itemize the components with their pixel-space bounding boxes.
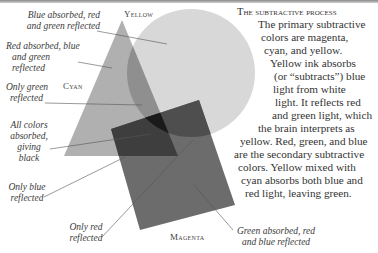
callout-blue-absorbed: Blue absorbed, red and green reflected bbox=[26, 10, 100, 32]
body-line-9: the brain interprets as bbox=[258, 122, 355, 135]
body-line-2: colors are magenta, bbox=[261, 31, 348, 44]
body-line-6: light from white bbox=[273, 83, 346, 96]
body-line-4: Yellow ink absorbs bbox=[270, 57, 356, 70]
callout-green-absorbed: Green absorbed, red and blue reflected bbox=[236, 226, 316, 248]
section-title: The subtractive process bbox=[237, 6, 337, 17]
callout-only-red: Only red reflected bbox=[66, 222, 106, 244]
body-line-1: The primary subtractive bbox=[258, 18, 365, 31]
body-line-13: cyan absorbs both blue and bbox=[241, 174, 363, 187]
leader-only-blue bbox=[44, 157, 125, 197]
label-yellow: Yellow bbox=[124, 9, 153, 19]
body-line-7: light. It reflects red bbox=[275, 96, 361, 109]
callout-red-absorbed: Red absorbed, blue and green reflected bbox=[6, 41, 80, 74]
body-line-5: (or “subtracts”) blue bbox=[274, 70, 365, 83]
body-line-14: red light, leaving green. bbox=[245, 187, 352, 200]
label-cyan: Cyan bbox=[63, 81, 83, 91]
callout-all-absorbed: All colors absorbed, giving black bbox=[6, 120, 52, 164]
callout-only-green: Only green reflected bbox=[6, 82, 52, 104]
body-line-11: are the secondary subtractive bbox=[234, 148, 364, 161]
label-magenta: Magenta bbox=[170, 232, 204, 242]
callout-only-blue: Only blue reflected bbox=[6, 182, 48, 204]
body-line-3: cyan, and yellow. bbox=[264, 44, 342, 57]
body-line-12: colors. Yellow mixed with bbox=[238, 161, 356, 174]
body-line-8: and green light, which bbox=[272, 109, 372, 122]
body-line-10: yellow. Red, green, and blue bbox=[240, 135, 368, 148]
